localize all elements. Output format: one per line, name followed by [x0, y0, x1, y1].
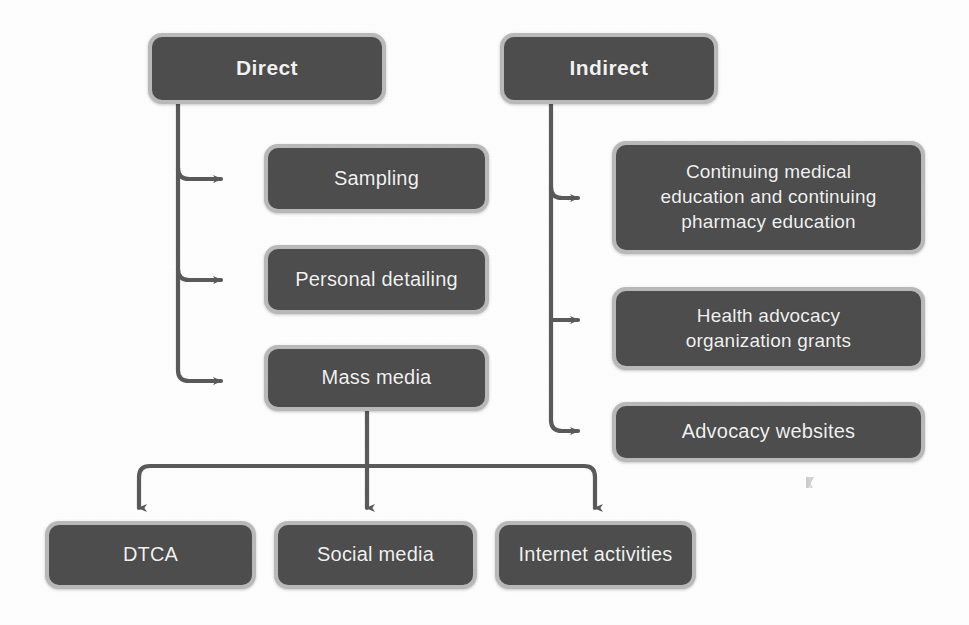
node-social-media[interactable]: Social media	[274, 521, 477, 589]
edge-indirect-spine	[551, 104, 578, 431]
node-dtca[interactable]: DTCA	[45, 521, 256, 589]
node-cme-cpe-line-3: pharmacy education	[681, 211, 856, 232]
node-health-advocacy-line-1: Health advocacy	[697, 305, 840, 326]
node-health-advocacy-line-2: organization grants	[686, 330, 851, 351]
edge-direct-personal-detailing	[178, 269, 221, 280]
node-internet-activities-label: Internet activities	[509, 542, 683, 568]
node-indirect[interactable]: Indirect	[500, 33, 718, 104]
node-mass-media[interactable]: Mass media	[264, 345, 489, 411]
node-personal-detailing[interactable]: Personal detailing	[264, 245, 489, 314]
node-advocacy-websites-label: Advocacy websites	[672, 419, 865, 445]
node-sampling[interactable]: Sampling	[264, 144, 489, 213]
node-mass-media-label: Mass media	[312, 365, 442, 391]
node-cme-cpe-label: Continuing medical education and continu…	[650, 160, 886, 234]
node-social-media-label: Social media	[307, 542, 444, 568]
edge-direct-sampling	[178, 168, 221, 179]
node-direct-label: Direct	[226, 55, 308, 82]
node-internet-activities[interactable]: Internet activities	[495, 521, 696, 589]
edge-indirect-cme	[551, 187, 578, 198]
edge-massmedia-bus	[139, 410, 595, 508]
node-cme-cpe[interactable]: Continuing medical education and continu…	[612, 141, 925, 254]
node-cme-cpe-line-2: education and continuing	[660, 186, 876, 207]
node-cme-cpe-line-1: Continuing medical	[686, 161, 851, 182]
node-indirect-label: Indirect	[559, 55, 658, 82]
node-sampling-label: Sampling	[324, 166, 429, 192]
node-dtca-label: DTCA	[113, 542, 188, 568]
edge-direct-spine	[178, 104, 221, 381]
node-direct[interactable]: Direct	[148, 33, 386, 104]
node-personal-detailing-label: Personal detailing	[285, 267, 468, 293]
node-health-advocacy-label: Health advocacy organization grants	[676, 304, 861, 353]
promotion-channels-diagram: Direct Indirect Sampling Personal detail…	[0, 0, 969, 625]
node-health-advocacy[interactable]: Health advocacy organization grants	[612, 287, 925, 370]
node-advocacy-websites[interactable]: Advocacy websites	[612, 402, 925, 462]
